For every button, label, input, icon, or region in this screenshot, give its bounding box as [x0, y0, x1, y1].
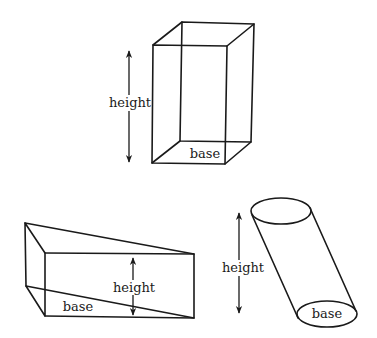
wedge-edge: [26, 286, 194, 318]
triangular-prism: height base: [25, 223, 194, 318]
prism-edge: [227, 24, 254, 46]
prism-back-face: [180, 22, 254, 142]
wedge-edge: [25, 223, 194, 254]
base-label: base: [312, 306, 343, 321]
height-label: height: [109, 95, 152, 110]
base-label: base: [190, 146, 221, 161]
solids-diagram: height base height base height base: [0, 0, 377, 338]
wedge-left-face: [25, 223, 45, 316]
height-label: height: [113, 280, 156, 295]
base-label: base: [63, 299, 94, 314]
oblique-cylinder: height base: [222, 198, 357, 327]
cylinder-side-edge: [310, 208, 356, 311]
cylinder-top-ellipse: [251, 198, 311, 224]
rectangular-prism: height base: [109, 22, 254, 164]
prism-edge: [225, 142, 251, 164]
height-label: height: [222, 260, 265, 275]
prism-edge: [153, 22, 182, 45]
prism-edge: [152, 141, 180, 163]
